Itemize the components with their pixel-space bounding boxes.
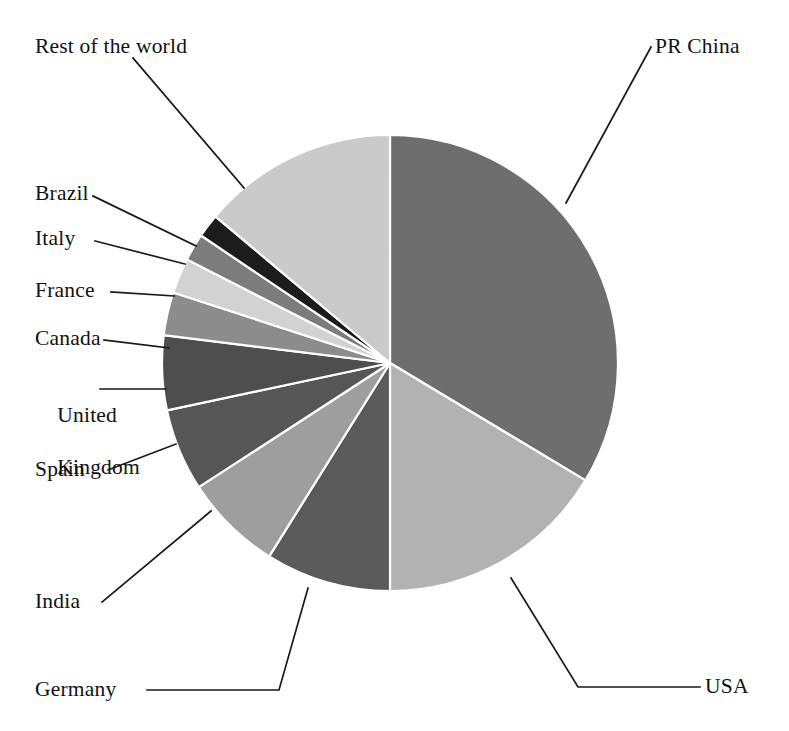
leader-line-canada (104, 340, 169, 348)
pie-label-rest-of-the-world: Rest of the world (35, 33, 187, 59)
pie-label-united-kingdom: United Kingdom (35, 376, 140, 506)
leader-line-india (102, 511, 211, 602)
leader-line-brazil (93, 196, 196, 246)
pie-label-india: India (35, 588, 80, 614)
pie-label-united-kingdom-line2: Kingdom (57, 455, 140, 479)
pie-chart-figure: PR China USA Germany India Spain United … (0, 0, 789, 731)
leader-line-rest-of-the-world (133, 58, 244, 188)
pie-label-united-kingdom-line1: United (57, 403, 117, 427)
leader-line-italy (95, 241, 185, 264)
leader-line-germany (147, 588, 308, 690)
pie-label-italy: Italy (35, 225, 75, 251)
leader-line-usa (511, 578, 700, 687)
pie-label-canada: Canada (35, 325, 101, 351)
pie-label-germany: Germany (35, 676, 116, 702)
pie-label-brazil: Brazil (35, 180, 89, 206)
pie-label-pr-china: PR China (655, 33, 740, 59)
leader-line-france (111, 292, 174, 296)
pie-label-france: France (35, 277, 95, 303)
pie-label-usa: USA (705, 673, 749, 699)
leader-line-pr-china (566, 47, 651, 203)
pie-slices-group (162, 135, 618, 591)
pie-chart-canvas (0, 0, 789, 731)
